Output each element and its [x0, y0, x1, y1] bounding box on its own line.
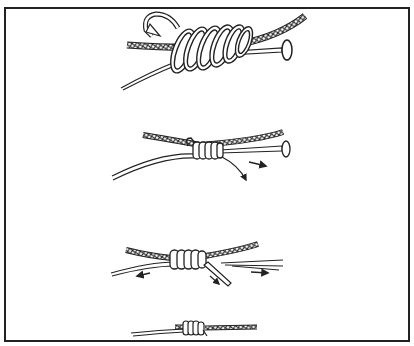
coils	[166, 22, 256, 76]
step-1	[121, 14, 305, 90]
step-3	[111, 244, 283, 286]
nail-withdraw-arrow	[249, 162, 266, 166]
left-pull-arrow	[137, 273, 150, 276]
step-2	[112, 132, 290, 180]
fly-line	[112, 154, 195, 176]
tag-pull-arrow	[222, 157, 246, 180]
fly-line	[111, 262, 175, 273]
coils	[183, 321, 207, 336]
step-4	[131, 321, 257, 336]
knot-illustration	[0, 0, 414, 346]
coils	[170, 250, 206, 269]
fly-line	[121, 62, 175, 88]
right-pull-arrow	[251, 272, 268, 273]
